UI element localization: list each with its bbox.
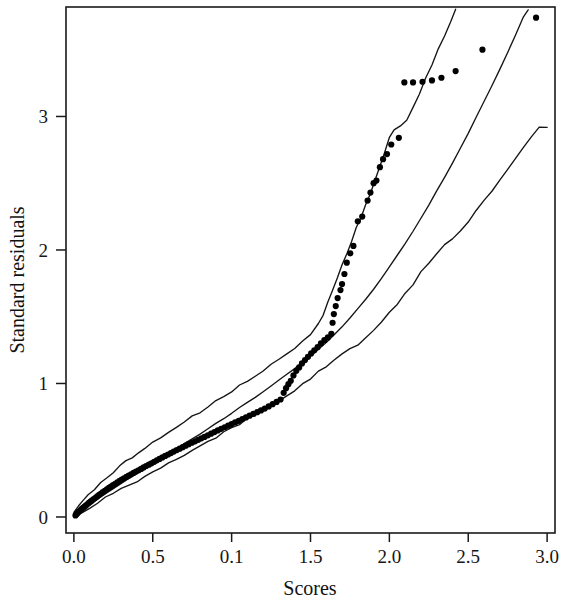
- data-point: [410, 79, 416, 85]
- x-tick-label: 0.0: [62, 546, 86, 567]
- data-point: [380, 156, 386, 162]
- y-tick-label: 3: [39, 106, 49, 127]
- series-line-median-line: [74, 10, 528, 514]
- data-point: [401, 79, 407, 85]
- data-point: [419, 79, 425, 85]
- y-axis-tick-labels: 0123: [39, 106, 49, 528]
- data-point: [359, 214, 365, 220]
- y-tick-label: 1: [39, 373, 49, 394]
- data-point: [365, 197, 371, 203]
- data-points: [72, 15, 539, 519]
- data-point: [373, 177, 379, 183]
- data-point: [453, 68, 459, 74]
- x-axis-title: Scores: [283, 577, 337, 599]
- x-tick-label: 0.1: [220, 546, 244, 567]
- data-point: [347, 250, 353, 256]
- x-axis-tick-labels: 0.00.50.11.52.02.53.0: [62, 546, 559, 567]
- data-point: [335, 295, 341, 301]
- chart-canvas: 0.00.50.11.52.02.53.0 0123 Scores Standa…: [0, 0, 563, 603]
- series-line-upper-envelope: [74, 9, 456, 512]
- data-point: [355, 218, 361, 224]
- x-tick-label: 2.5: [456, 546, 480, 567]
- data-point: [438, 75, 444, 81]
- data-point: [388, 141, 394, 147]
- data-point: [288, 378, 294, 384]
- x-tick-label: 3.0: [535, 546, 559, 567]
- x-tick-label: 0.5: [141, 546, 165, 567]
- data-point: [344, 260, 350, 266]
- data-point: [331, 311, 337, 317]
- data-point: [341, 271, 347, 277]
- data-point: [350, 243, 356, 249]
- y-tick-label: 0: [39, 507, 49, 528]
- y-axis-ticks: [56, 116, 66, 517]
- data-point: [328, 331, 334, 337]
- data-point: [329, 320, 335, 326]
- data-point: [533, 15, 539, 21]
- plot-frame: [66, 7, 555, 533]
- y-tick-label: 2: [39, 240, 49, 261]
- data-point: [367, 189, 373, 195]
- series-line-lower-envelope: [74, 127, 547, 515]
- half-normal-plot-figure: 0.00.50.11.52.02.53.0 0123 Scores Standa…: [0, 0, 563, 603]
- data-point: [277, 396, 283, 402]
- data-point: [337, 287, 343, 293]
- y-axis-title: Standard residuals: [6, 206, 28, 353]
- data-point: [384, 151, 390, 157]
- x-axis-ticks: [74, 533, 547, 542]
- data-point: [396, 135, 402, 141]
- data-point: [333, 303, 339, 309]
- data-point: [339, 281, 345, 287]
- data-point: [429, 77, 435, 83]
- data-point: [479, 47, 485, 53]
- x-tick-label: 1.5: [299, 546, 323, 567]
- data-point: [377, 164, 383, 170]
- envelope-lines: [74, 9, 547, 515]
- x-tick-label: 2.0: [377, 546, 401, 567]
